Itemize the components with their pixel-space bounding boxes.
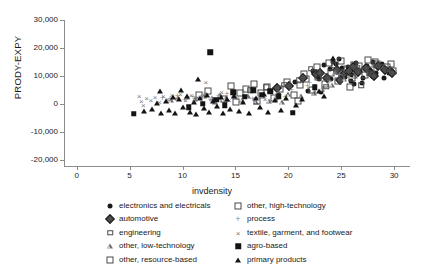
- marker-glyph: [235, 229, 242, 236]
- data-point: [359, 83, 365, 89]
- y-tick-label: -10,000: [31, 128, 58, 136]
- legend-label: electronics and electricals: [119, 202, 211, 210]
- data-point: [236, 108, 242, 113]
- data-point: [364, 57, 371, 64]
- data-point: [187, 109, 193, 114]
- data-point: [338, 58, 345, 65]
- legend-label: other, low-technology: [119, 242, 195, 250]
- x-tick-mark: [183, 166, 184, 170]
- data-point: [207, 49, 213, 55]
- data-point: [272, 98, 278, 103]
- data-point: [314, 74, 321, 81]
- x-axis-line: [64, 166, 410, 167]
- data-point: [149, 107, 155, 112]
- data-point: [195, 76, 201, 81]
- marker-glyph: [107, 256, 114, 263]
- data-point: [325, 59, 332, 66]
- legend-item[interactable]: other, high-technology: [232, 199, 407, 213]
- x-tick-label: 30: [379, 172, 409, 180]
- data-point: [218, 94, 224, 99]
- data-point: [214, 103, 220, 108]
- data-point: [261, 92, 267, 97]
- marker-glyph: [235, 244, 241, 250]
- legend-label: primary products: [247, 256, 307, 264]
- data-point: [265, 109, 271, 114]
- legend-marker-plus-icon: [232, 214, 244, 224]
- legend-column-right: other, high-technologyprocesstextile, ga…: [232, 199, 407, 267]
- data-point: [330, 55, 336, 60]
- y-tick-label: 30,000: [34, 16, 58, 24]
- data-point: [321, 93, 327, 98]
- y-axis-title: PRODY-EXPY: [12, 13, 23, 123]
- marker-glyph: [235, 202, 242, 209]
- legend-item[interactable]: process: [232, 213, 407, 227]
- legend-item[interactable]: primary products: [232, 253, 407, 267]
- data-point: [224, 96, 230, 101]
- data-point: [141, 109, 147, 114]
- data-point: [251, 87, 257, 93]
- legend-marker-filled-diamond-icon: [104, 214, 116, 224]
- data-point: [170, 95, 176, 100]
- marker-glyph: [235, 257, 241, 262]
- x-tick-mark: [77, 166, 78, 170]
- data-point: [193, 111, 199, 116]
- y-tick-label: 20,000: [34, 44, 58, 52]
- plot-area: [64, 14, 410, 166]
- legend-marker-open-square-icon: [232, 201, 244, 211]
- data-point: [313, 63, 320, 70]
- data-point: [336, 71, 343, 78]
- x-tick-label: 10: [168, 172, 198, 180]
- legend-marker-filled-triangle-icon: [232, 255, 244, 265]
- marker-glyph: [105, 214, 115, 224]
- data-points-layer: [64, 14, 410, 166]
- x-tick-mark: [394, 166, 395, 170]
- legend-label: other, resource-based: [119, 256, 197, 264]
- data-point: [158, 110, 164, 115]
- y-tick-label: -20,000: [31, 156, 58, 164]
- data-point: [346, 83, 353, 90]
- legend-column-left: electronics and electricalsautomotiveeng…: [104, 199, 234, 267]
- legend-marker-open-square-sm-icon: [104, 228, 116, 238]
- data-point: [296, 82, 303, 89]
- legend-item[interactable]: electronics and electricals: [104, 199, 234, 213]
- data-point: [136, 92, 143, 99]
- legend-item[interactable]: textile, garment, and footwear: [232, 226, 407, 240]
- data-point: [293, 103, 299, 108]
- data-point: [290, 110, 296, 116]
- data-point: [283, 95, 289, 100]
- marker-glyph: [235, 216, 242, 223]
- legend-marker-cross-icon: [232, 228, 244, 238]
- legend-marker-filled-square-icon: [232, 241, 244, 251]
- data-point: [268, 88, 274, 94]
- x-tick-label: 0: [62, 172, 92, 180]
- legend-label: agro-based: [247, 242, 287, 250]
- legend-item[interactable]: engineering: [104, 226, 234, 240]
- data-point: [240, 99, 246, 104]
- data-point: [372, 58, 379, 65]
- data-point: [278, 107, 284, 112]
- scatter-plot-figure: PRODY-EXPY 30,00020,00010,0000-10,000-20…: [0, 0, 424, 278]
- legend-item[interactable]: other, resource-based: [104, 253, 234, 267]
- data-point: [348, 75, 355, 82]
- data-point: [178, 87, 184, 92]
- data-point: [157, 88, 163, 93]
- x-tick-mark: [341, 166, 342, 170]
- data-point: [206, 110, 212, 115]
- legend-item[interactable]: automotive: [104, 213, 234, 227]
- legend-item[interactable]: agro-based: [232, 240, 407, 254]
- marker-glyph: [108, 203, 113, 208]
- data-point: [176, 97, 182, 102]
- legend-item[interactable]: other, low-technology: [104, 240, 234, 254]
- legend-label: engineering: [119, 229, 161, 237]
- x-tick-mark: [130, 166, 131, 170]
- data-point: [166, 108, 172, 113]
- data-point: [387, 60, 394, 67]
- data-point: [154, 100, 160, 105]
- data-point: [180, 104, 186, 109]
- legend-marker-open-triangle-icon: [104, 241, 116, 251]
- x-tick-mark: [235, 166, 236, 170]
- y-tick-label: 10,000: [34, 72, 58, 80]
- marker-glyph: [107, 230, 113, 236]
- x-tick-label: 20: [273, 172, 303, 180]
- x-tick-label: 25: [326, 172, 356, 180]
